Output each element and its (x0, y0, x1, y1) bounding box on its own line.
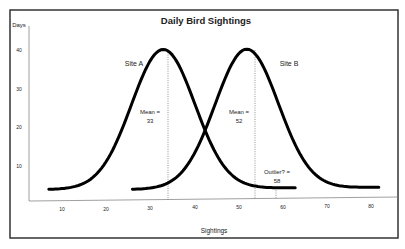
bird-sightings-chart: Daily Bird Sightings Days Sightings 40 3… (0, 0, 405, 249)
x-tick: 30 (147, 205, 153, 211)
x-tick: 50 (236, 204, 242, 210)
site-a-label: Site A (125, 60, 144, 67)
mean-a-annotation-line2: 33 (147, 118, 154, 124)
x-tick: 80 (368, 203, 374, 209)
x-tick: 60 (280, 204, 286, 210)
mean-b-annotation-line2: 52 (236, 118, 243, 124)
y-tick: 10 (16, 163, 22, 169)
x-tick: 70 (324, 203, 330, 209)
x-tick: 20 (103, 206, 109, 212)
x-tick: 10 (59, 206, 65, 212)
mean-a-annotation-line1: Mean = (140, 109, 161, 115)
x-tick: 40 (192, 204, 198, 210)
y-tick: 40 (16, 47, 22, 53)
y-axis-label: Days (12, 22, 26, 28)
chart-title: Daily Bird Sightings (161, 15, 251, 26)
y-tick: 30 (16, 86, 22, 92)
site-b-label: Site B (280, 60, 299, 67)
x-axis-label: Sightings (201, 227, 228, 235)
mean-b-annotation-line1: Mean = (229, 109, 250, 115)
outlier-annotation-line2: 58 (274, 178, 281, 184)
y-tick: 20 (16, 124, 22, 130)
outlier-annotation-line1: Outlier? = (264, 169, 291, 175)
